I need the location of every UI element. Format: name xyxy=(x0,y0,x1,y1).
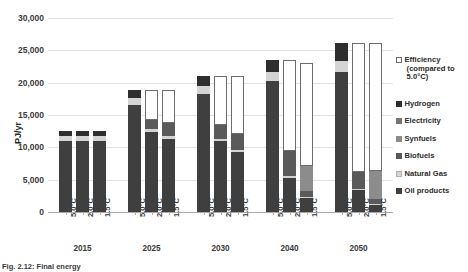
bar-2030-1.5C[interactable] xyxy=(231,18,244,212)
bar-2015-5.0C[interactable] xyxy=(59,18,72,212)
legend-label: Hydrogen xyxy=(405,100,440,109)
y-axis-tick-label: 0 xyxy=(0,208,44,216)
legend-swatch-icon xyxy=(396,101,402,107)
x-axis-scenario-label: 2.0°C xyxy=(224,198,233,217)
x-axis-tick xyxy=(307,212,308,215)
y-axis-tick-label: 30,000 xyxy=(0,14,44,22)
x-axis-tick xyxy=(204,212,205,215)
bar-2025-1.5C[interactable] xyxy=(162,18,175,212)
bar-2030-5.0C[interactable] xyxy=(197,18,210,212)
legend-item-biofuels[interactable]: Biofuels xyxy=(396,152,434,161)
legend-swatch-icon xyxy=(396,118,402,124)
bar-segment-natural-gas xyxy=(128,98,141,105)
legend-swatch-icon xyxy=(396,57,402,63)
bar-segment-hydrogen xyxy=(93,131,106,137)
bar-segment-oil-products xyxy=(266,81,279,212)
x-axis-scenario-label: 5.0°C xyxy=(207,198,216,217)
x-axis-tick xyxy=(273,212,274,215)
bar-2040-2.0C[interactable] xyxy=(283,18,296,212)
bar-2040-1.5C[interactable] xyxy=(300,18,313,212)
bar-2030-2.0C[interactable] xyxy=(214,18,227,212)
y-axis-tick-label: 15,000 xyxy=(0,111,44,119)
bar-segment-natural-gas xyxy=(93,136,106,141)
x-axis-tick xyxy=(152,212,153,215)
bar-segment-biofuels xyxy=(145,120,158,130)
bar-segment-natural-gas xyxy=(231,150,244,152)
bar-segment-natural-gas xyxy=(266,72,279,80)
bar-segment-oil-products xyxy=(197,94,210,212)
x-axis-tick xyxy=(376,212,377,215)
bar-2050-5.0C[interactable] xyxy=(335,18,348,212)
x-axis-tick xyxy=(83,212,84,215)
bar-2025-5.0C[interactable] xyxy=(128,18,141,212)
x-axis-scenario-label: 2.0°C xyxy=(362,198,371,217)
x-axis-tick xyxy=(66,212,67,215)
bar-segment-natural-gas xyxy=(352,189,365,190)
bar-2050-2.0C[interactable] xyxy=(352,18,365,212)
bar-segment-natural-gas xyxy=(335,61,348,72)
bar-segment-natural-gas xyxy=(214,139,227,141)
legend-label: Biofuels xyxy=(405,152,435,161)
legend-item-electricity[interactable]: Electricity xyxy=(396,117,441,126)
bar-segment-oil-products xyxy=(335,72,348,212)
legend-item-efficiency[interactable]: Efficiency (compared to 5.0°C) xyxy=(396,56,455,82)
x-axis-scenario-label: 5.0°C xyxy=(276,198,285,217)
bar-segment-efficiency xyxy=(162,90,175,123)
x-axis-scenario-label: 2.0°C xyxy=(155,198,164,217)
bar-2015-1.5C[interactable] xyxy=(93,18,106,212)
bar-2040-5.0C[interactable] xyxy=(266,18,279,212)
x-axis-tick xyxy=(135,212,136,215)
bar-segment-natural-gas xyxy=(197,86,210,94)
bar-segment-biofuels xyxy=(300,191,313,197)
bar-segment-oil-products xyxy=(128,105,141,212)
legend-label: Electricity xyxy=(405,117,441,126)
x-axis-group-label-2015: 2015 xyxy=(48,244,117,253)
legend-item-synfuels[interactable]: Synfuels xyxy=(396,135,436,144)
bar-segment-synfuels xyxy=(300,166,313,191)
x-axis-tick xyxy=(238,212,239,215)
bar-segment-efficiency xyxy=(214,76,227,125)
y-axis-tick-label: 25,000 xyxy=(0,46,44,54)
legend-swatch-icon xyxy=(396,136,402,142)
legend-swatch-icon xyxy=(396,153,402,159)
bar-segment-efficiency xyxy=(283,60,296,151)
plot-area xyxy=(48,18,393,212)
x-axis-tick xyxy=(169,212,170,215)
x-axis-group-label-2050: 2050 xyxy=(324,244,393,253)
chart-container: PJ/yr 05,00010,00015,00020,00025,00030,0… xyxy=(0,0,468,272)
legend-item-oil-products[interactable]: Oil products xyxy=(396,187,449,196)
bar-2025-2.0C[interactable] xyxy=(145,18,158,212)
x-axis-scenario-label: 1.5°C xyxy=(379,198,388,217)
bar-2015-2.0C[interactable] xyxy=(76,18,89,212)
legend-item-natural-gas[interactable]: Natural Gas xyxy=(396,170,447,179)
x-axis-scenario-label: 1.5°C xyxy=(310,198,319,217)
bar-segment-natural-gas xyxy=(76,136,89,141)
y-axis-tick-label: 5,000 xyxy=(0,176,44,184)
x-axis-tick xyxy=(359,212,360,215)
x-axis-group-label-2025: 2025 xyxy=(117,244,186,253)
bar-segment-hydrogen xyxy=(128,90,141,98)
x-axis-scenario-label: 1.5°C xyxy=(241,198,250,217)
bar-segment-natural-gas xyxy=(283,176,296,179)
x-axis-scenario-label: 5.0°C xyxy=(138,198,147,217)
bar-segment-efficiency xyxy=(145,90,158,119)
bar-segment-synfuels xyxy=(369,171,382,199)
legend-label: Synfuels xyxy=(405,135,437,144)
bar-segment-efficiency xyxy=(231,76,244,134)
legend-label: Efficiency (compared to 5.0°C) xyxy=(405,56,455,82)
legend-label: Natural Gas xyxy=(405,170,448,179)
bar-segment-natural-gas xyxy=(145,129,158,132)
y-axis-tick-label: 20,000 xyxy=(0,79,44,87)
bar-segment-biofuels xyxy=(214,125,227,139)
legend-item-hydrogen[interactable]: Hydrogen xyxy=(396,100,440,109)
legend-swatch-icon xyxy=(396,188,402,194)
x-axis-tick xyxy=(221,212,222,215)
x-axis-scenario-label: 2.0°C xyxy=(86,198,95,217)
bar-segment-biofuels xyxy=(283,151,296,176)
bar-2050-1.5C[interactable] xyxy=(369,18,382,212)
x-axis-scenario-label: 5.0°C xyxy=(345,198,354,217)
bar-segment-biofuels xyxy=(352,172,365,189)
x-axis-scenario-label: 1.5°C xyxy=(172,198,181,217)
bar-segment-biofuels xyxy=(162,123,175,136)
x-axis-scenario-label: 2.0°C xyxy=(293,198,302,217)
